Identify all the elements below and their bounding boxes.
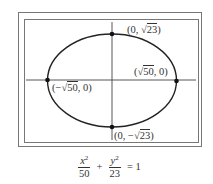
label-bottom-vertex: (0, −√23) (114, 130, 154, 141)
vertex-right-point (174, 79, 179, 84)
fraction-y: y2 23 (108, 152, 121, 180)
label-left-vertex: (−√50, 0) (52, 82, 92, 93)
vertex-bottom-point (110, 125, 115, 130)
equals-one: = 1 (127, 161, 141, 172)
fraction-x: x2 50 (78, 152, 91, 180)
plus-sign: + (97, 161, 103, 172)
vertex-top-point (110, 32, 115, 37)
label-top-vertex: (0, √23) (127, 24, 161, 35)
label-right-vertex: (√50, 0) (134, 66, 168, 77)
ellipse-equation: x2 50 + y2 23 = 1 (76, 150, 145, 182)
vertex-left-point (45, 78, 50, 83)
